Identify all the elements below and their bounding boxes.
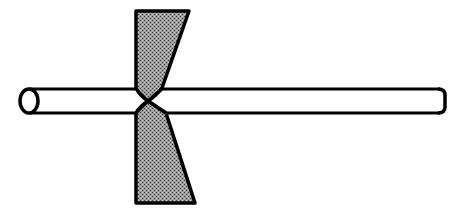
rod-right-end <box>438 89 445 113</box>
lower-die <box>136 101 195 203</box>
rod <box>20 89 445 113</box>
rod-end-face <box>20 89 38 113</box>
diagram-svg <box>0 0 460 213</box>
diagram-canvas: Rod being pinched (drawn) between two ta… <box>0 0 460 213</box>
